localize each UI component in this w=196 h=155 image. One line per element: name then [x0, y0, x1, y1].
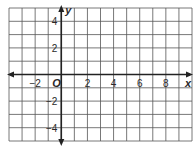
- x-axis-label: x: [184, 77, 192, 89]
- y-axis-arrow-up-icon: [58, 5, 64, 12]
- x-tick-label: 4: [111, 78, 117, 89]
- x-tick-label: 2: [85, 78, 91, 89]
- y-axis-label: y: [64, 4, 72, 16]
- origin-label: O: [52, 77, 61, 89]
- y-tick-label: −2: [46, 96, 58, 107]
- coordinate-plane: −2246842−2−4 x y O: [0, 0, 196, 155]
- x-tick-label: −2: [29, 78, 41, 89]
- y-tick-label: 2: [52, 43, 58, 54]
- x-tick-label: 6: [137, 78, 143, 89]
- y-tick-label: 4: [52, 16, 58, 27]
- y-tick-label: −4: [46, 123, 58, 134]
- x-tick-label: 8: [163, 78, 169, 89]
- y-axis-arrow-down-icon: [58, 139, 64, 146]
- x-axis-arrow-left-icon: [7, 72, 14, 78]
